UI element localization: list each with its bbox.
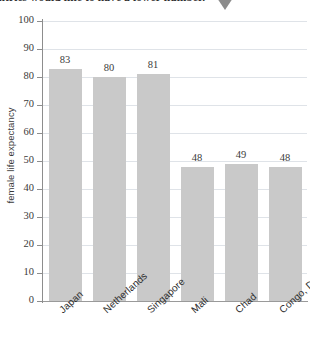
caption-text: untries would like to have a lower numbe… <box>0 0 205 3</box>
y-axis-tick <box>37 133 43 134</box>
y-axis-tick-label: 0 <box>0 294 34 305</box>
y-axis-tick-label: 20 <box>0 238 34 249</box>
gridline <box>43 49 307 50</box>
gridline <box>43 301 307 302</box>
y-axis-tick <box>37 217 43 218</box>
gridline <box>43 273 307 274</box>
gridline <box>43 105 307 106</box>
plot-area: 838081484948 <box>43 21 307 301</box>
gridline <box>43 245 307 246</box>
down-triangle-marker-icon <box>217 0 233 10</box>
bar-value-label: 48 <box>259 152 311 163</box>
y-axis-tick-label: 80 <box>0 70 34 81</box>
y-axis-tick-label: 90 <box>0 42 34 53</box>
gridline <box>43 189 307 190</box>
y-axis-tick <box>37 77 43 78</box>
y-axis-tick <box>37 49 43 50</box>
bar <box>137 74 170 301</box>
bar <box>49 69 82 301</box>
y-axis-tick <box>37 21 43 22</box>
y-axis-tick-label: 40 <box>0 182 34 193</box>
y-axis-tick-label: 100 <box>0 14 34 25</box>
y-axis-tick-label: 70 <box>0 98 34 109</box>
bar-value-label: 81 <box>127 59 180 70</box>
y-axis-tick-label: 10 <box>0 266 34 277</box>
y-axis-tick-label: 30 <box>0 210 34 221</box>
bar <box>93 77 126 301</box>
y-axis-tick-label: 50 <box>0 154 34 165</box>
gridline <box>43 21 307 22</box>
gridline <box>43 133 307 134</box>
y-axis-tick <box>37 105 43 106</box>
y-axis-tick <box>37 273 43 274</box>
y-axis-tick <box>37 161 43 162</box>
y-axis-tick <box>37 301 43 302</box>
bar-chart-figure: untries would like to have a lower numbe… <box>0 0 310 362</box>
gridline <box>43 217 307 218</box>
bar <box>269 167 302 301</box>
y-axis-tick <box>37 245 43 246</box>
bar <box>225 164 258 301</box>
y-axis-tick <box>37 189 43 190</box>
gridline <box>43 77 307 78</box>
y-axis-tick-label: 60 <box>0 126 34 137</box>
cropped-caption: untries would like to have a lower numbe… <box>0 0 310 9</box>
